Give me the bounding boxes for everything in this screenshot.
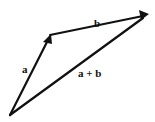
label-b: b xyxy=(94,17,100,29)
vector-diagram: a b a + b xyxy=(0,0,155,122)
label-a: a xyxy=(22,63,28,75)
vector-sum-line xyxy=(10,18,143,115)
vector-a-line xyxy=(10,38,49,115)
label-a-plus-b: a + b xyxy=(78,67,101,79)
